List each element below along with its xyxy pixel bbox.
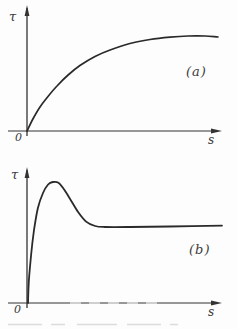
x-axis-label: s xyxy=(208,306,214,318)
curve-a xyxy=(27,36,218,131)
origin-label: 0 xyxy=(14,304,21,315)
figure-two-panel-curves: τ 0 s (a) τ 0 s (b) xyxy=(0,0,238,329)
y-axis-label: τ xyxy=(9,10,16,23)
origin-label: 0 xyxy=(15,132,22,143)
y-axis-label: τ xyxy=(11,168,18,181)
panel-a: τ 0 s (a) xyxy=(0,0,238,165)
x-axis-label: s xyxy=(208,134,214,146)
panel-a-plot xyxy=(0,0,238,165)
panel-b: τ 0 s (b) xyxy=(0,165,238,329)
panel-b-label: (b) xyxy=(189,243,210,256)
panel-a-label: (a) xyxy=(186,65,207,78)
y-axis-arrow-icon xyxy=(25,5,30,16)
y-axis-arrow-icon xyxy=(25,167,30,178)
